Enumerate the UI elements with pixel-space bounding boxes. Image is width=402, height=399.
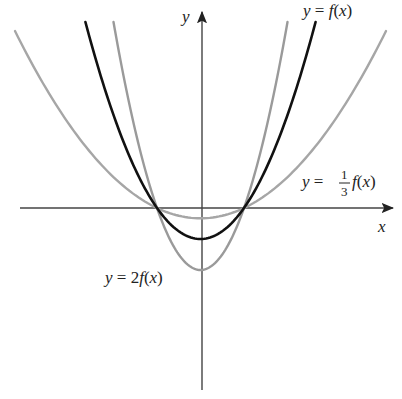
svg-text:3: 3 (341, 184, 348, 199)
label-one-third-f: y = 1 3 f(x) (300, 167, 376, 199)
label-f: y = f(x) (301, 1, 352, 20)
y-axis-label: y (180, 7, 190, 26)
label-two-f: y = 2f(x) (103, 268, 163, 287)
chart-stage: y x y = f(x) y = 1 3 f(x) y = 2f(x) (0, 0, 402, 399)
curve-one-third-f (15, 31, 386, 218)
svg-text:1: 1 (341, 167, 348, 182)
svg-text:f(x): f(x) (352, 172, 376, 191)
curve-two-f (114, 22, 288, 270)
parabola-plot: y x y = f(x) y = 1 3 f(x) y = 2f(x) (0, 0, 402, 399)
x-axis-label: x (377, 217, 386, 236)
svg-text:y =: y = (300, 172, 323, 191)
